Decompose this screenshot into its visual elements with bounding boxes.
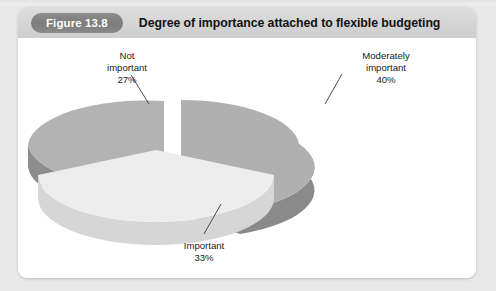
label-moderately-important-line1: Moderately	[362, 50, 410, 61]
label-moderately-important: Moderately important 40%	[362, 50, 410, 85]
label-not-important-value: 27%	[117, 74, 137, 85]
figure-header: Figure 13.8 Degree of importance attache…	[18, 7, 476, 38]
label-important-value: 33%	[194, 252, 214, 263]
leader-line-moderately-important	[325, 74, 342, 104]
label-moderately-important-value: 40%	[376, 74, 396, 85]
label-not-important: Not important 27%	[107, 50, 147, 85]
pie-chart: Not important 27% Moderately important 4…	[18, 38, 476, 278]
label-not-important-line1: Not	[120, 50, 135, 61]
scan-artifact	[0, 0, 496, 7]
label-important-line1: Important	[184, 240, 225, 251]
figure-title: Degree of importance attached to flexibl…	[139, 16, 441, 30]
label-not-important-line2: important	[107, 62, 147, 73]
chart-area: Not important 27% Moderately important 4…	[18, 38, 476, 278]
label-moderately-important-line2: important	[366, 62, 406, 73]
label-important: Important 33%	[184, 240, 225, 263]
figure-number-badge: Figure 13.8	[31, 13, 123, 33]
figure-card: Figure 13.8 Degree of importance attache…	[18, 7, 476, 278]
